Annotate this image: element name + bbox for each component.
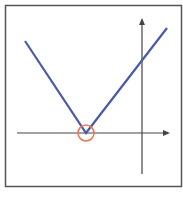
absolute-value-graph (0, 0, 183, 198)
frame-border (6, 6, 182, 187)
figure (0, 0, 183, 198)
